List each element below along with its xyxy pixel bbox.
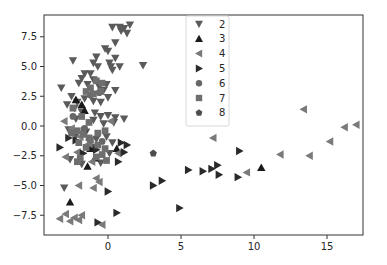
data-point-3 [257,163,265,171]
data-point-2 [111,39,119,47]
data-point-4 [340,123,348,131]
data-point-5 [176,204,184,212]
data-point-2 [97,113,105,121]
data-point-5 [216,171,224,179]
data-point-2 [108,139,116,147]
data-point-7 [74,127,81,134]
data-point-4 [60,117,68,125]
data-point-2 [104,112,112,120]
data-point-2 [111,87,119,95]
data-point-5 [105,187,113,195]
y-axis: 7.55.02.50.0−2.5−5.0−7.5 [13,31,44,221]
data-point-4 [352,121,360,129]
legend: 2345678 [186,16,229,126]
data-point-4 [243,168,251,176]
y-tick-label: 0.0 [21,121,37,132]
data-point-2 [89,98,97,106]
data-point-5 [150,181,158,189]
data-point-7 [75,139,82,146]
data-point-4 [299,105,307,113]
data-point-4 [305,152,313,160]
data-point-7 [93,154,100,161]
data-point-2 [75,80,83,88]
legend-marker-7-icon [196,95,202,101]
data-point-2 [108,67,116,75]
data-point-2 [97,99,105,107]
data-point-7 [83,88,90,95]
legend-label: 4 [219,48,225,59]
data-point-2 [57,85,65,93]
data-point-7 [87,137,94,144]
y-tick-label: 2.5 [21,91,37,102]
data-point-4 [56,215,64,223]
y-tick-label: −5.0 [13,180,37,191]
data-point-5 [214,161,222,169]
x-axis: 051015 [105,235,334,252]
x-tick-label: 5 [178,241,184,252]
data-point-5 [121,148,129,156]
data-point-2 [115,63,123,71]
data-point-7 [77,155,84,162]
data-point-6 [81,125,88,132]
data-point-7 [90,91,97,98]
y-tick-label: −2.5 [13,150,37,161]
data-point-6 [70,113,77,120]
data-point-5 [200,167,208,175]
data-point-2 [99,120,107,128]
data-point-7 [70,105,77,112]
data-point-8 [150,150,157,157]
data-point-4 [326,137,334,145]
data-point-7 [102,127,109,134]
scatter-chart: 051015 7.55.02.50.0−2.5−5.0−7.5 2345678 [0,0,387,265]
y-tick-label: 7.5 [21,31,37,42]
data-point-2 [123,30,131,38]
data-point-5 [56,143,64,151]
data-point-2 [104,94,112,102]
data-point-5 [124,141,132,149]
y-tick-label: 5.0 [21,61,37,72]
data-point-5 [236,147,244,155]
data-point-4 [276,150,284,158]
legend-label: 6 [219,78,225,89]
data-point-7 [102,145,109,152]
data-point-2 [139,62,147,70]
data-point-7 [99,80,106,87]
data-point-2 [120,116,128,124]
data-point-7 [68,130,75,137]
legend-label: 3 [219,33,225,44]
x-tick-label: 10 [248,241,261,252]
data-point-4 [89,184,97,192]
data-point-4 [61,153,69,161]
data-point-5 [113,209,121,217]
data-point-7 [97,88,104,95]
data-point-2 [94,63,102,71]
data-point-5 [235,173,243,181]
data-point-5 [185,166,193,174]
x-tick-label: 0 [105,241,111,252]
data-point-7 [93,77,100,84]
data-point-2 [69,57,77,65]
data-point-3 [83,162,91,170]
data-point-7 [99,151,106,158]
data-point-4 [209,134,217,142]
data-point-2 [60,185,68,193]
legend-label: 5 [219,63,225,74]
y-tick-label: −7.5 [13,210,37,221]
legend-marker-6-icon [196,80,202,86]
data-point-7 [86,119,93,126]
data-point-7 [80,131,87,138]
data-point-2 [108,24,116,32]
data-point-3 [66,198,74,206]
data-point-4 [75,181,83,189]
data-point-7 [103,157,110,164]
x-tick-label: 15 [321,241,334,252]
data-point-5 [115,158,123,166]
data-point-5 [159,177,167,185]
data-point-4 [66,217,74,225]
data-point-7 [78,113,85,120]
legend-label: 7 [219,93,225,104]
data-point-7 [94,142,101,149]
legend-label: 2 [219,19,225,30]
data-point-7 [94,130,101,137]
data-point-7 [83,144,90,151]
